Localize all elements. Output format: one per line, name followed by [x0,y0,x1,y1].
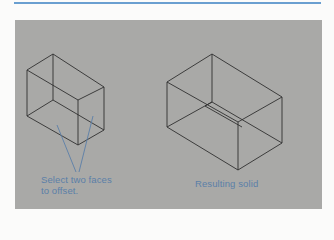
caption-line-1: Select two faces [41,175,112,186]
selection-leader-lines [57,116,93,172]
right-box-wireframe [167,54,282,170]
caption-line-2: to offset. [41,186,112,197]
right-box-caption: Resulting solid [195,179,258,190]
left-box-wireframe [27,54,104,145]
left-box-caption: Select two faces to offset. [41,175,112,196]
